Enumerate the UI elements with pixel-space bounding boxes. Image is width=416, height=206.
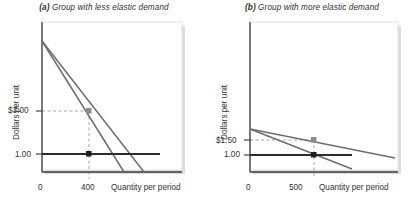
- price-discrimination-figure: (a) Group with less elastic demand Dolla…: [0, 0, 416, 206]
- panel-b-quantity-marker: [311, 152, 317, 158]
- panel-b-price-marker: [311, 137, 317, 143]
- panel-b-plot: [0, 0, 416, 206]
- panel-b-frame-fill: [250, 22, 398, 170]
